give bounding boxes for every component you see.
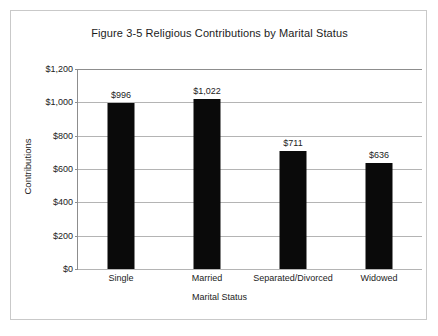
bar-slot: $636Widowed [336,69,422,269]
y-tick-mark [75,269,78,270]
bar[interactable] [194,99,221,269]
bar-value-label: $996 [111,90,131,100]
y-axis-title: Contributions [22,107,33,227]
chart-title: Figure 3-5 Religious Contributions by Ma… [11,27,428,39]
bar-slot: $711Separated/Divorced [250,69,336,269]
bar[interactable] [280,151,307,270]
x-axis-title: Marital Status [11,292,428,302]
figure-frame: Figure 3-5 Religious Contributions by Ma… [10,10,427,320]
x-category-label: Widowed [360,273,397,283]
gridline [78,269,422,270]
y-tick-label: $1,000 [45,97,73,107]
x-category-label: Married [192,273,223,283]
bar[interactable] [108,103,135,269]
y-tick-label: $0 [63,264,73,274]
y-tick-label: $400 [53,197,73,207]
plot-area: $1,200$1,000$800$600$400$200$0 $996Singl… [77,69,422,270]
bar-value-label: $1,022 [193,86,221,96]
bar[interactable] [366,163,393,269]
bar-value-label: $636 [369,150,389,160]
bar-value-label: $711 [283,138,302,148]
y-tick-label: $800 [53,131,73,141]
y-tick-label: $200 [53,231,73,241]
bar-slot: $1,022Married [164,69,250,269]
x-category-label: Separated/Divorced [253,273,333,283]
y-tick-label: $1,200 [45,64,73,74]
bar-slot: $996Single [78,69,164,269]
x-category-label: Single [108,273,133,283]
y-tick-label: $600 [53,164,73,174]
